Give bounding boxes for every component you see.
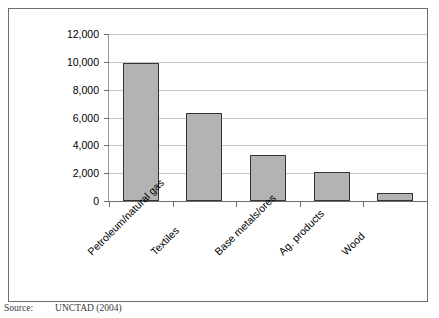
x-axis-tick [300,202,301,207]
bar [314,172,350,201]
x-axis-tick [173,202,174,207]
source-label: Source: [4,303,33,313]
x-axis-category-label: Ag. products [276,207,326,257]
gridline [109,34,427,35]
y-axis-tick-label: 4,000 [41,140,99,150]
y-axis-tick-label: 6,000 [41,113,99,123]
x-axis-tick [363,202,364,207]
x-axis-tick [109,202,110,207]
y-axis-tick-label: 2,000 [41,168,99,178]
y-axis-tick-label: 10,000 [41,57,99,67]
x-axis-tick [427,202,428,207]
y-axis-tick-label: 8,000 [41,85,99,95]
y-axis-tick [104,34,109,35]
source-text: UNCTAD (2004) [55,303,122,313]
y-axis-tick [104,118,109,119]
y-axis-tick-label: 0 [41,196,99,206]
source-caption: Source:UNCTAD (2004) [4,303,122,313]
y-axis-tick [104,145,109,146]
y-axis-tick-label: 12,000 [41,29,99,39]
x-axis-tick [236,202,237,207]
chart-frame: Million dollars 02,0004,0006,0008,00010,… [8,8,428,302]
y-axis-tick [104,62,109,63]
y-axis-tick [104,173,109,174]
bar [186,113,222,201]
x-axis-category-label: Wood [339,230,367,258]
y-axis-tick-labels: 02,0004,0006,0008,00010,00012,000 [41,9,99,318]
y-axis-tick [104,90,109,91]
x-axis-category-label: Textiles [148,224,181,257]
bar [377,193,413,201]
